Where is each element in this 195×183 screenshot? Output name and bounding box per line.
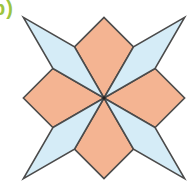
figure-label: b) [0,0,14,20]
center-point [102,96,105,99]
star-shapes-group [23,17,184,178]
figure-panel: b) [0,0,195,183]
star-figure [0,0,195,183]
